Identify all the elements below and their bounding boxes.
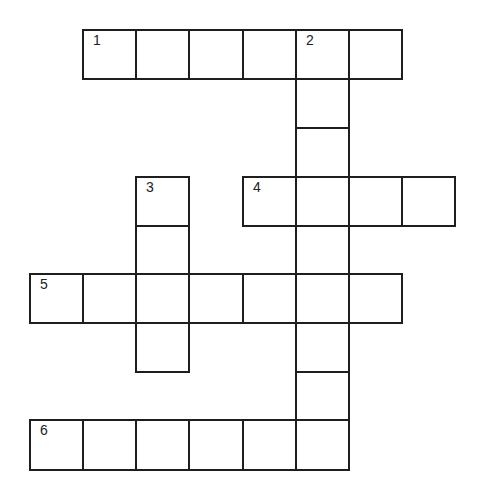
- crossword-cell[interactable]: [348, 29, 403, 80]
- letter-input[interactable]: [244, 421, 295, 469]
- letter-input[interactable]: [84, 421, 135, 469]
- crossword-cell[interactable]: [82, 419, 137, 471]
- crossword-cell[interactable]: [295, 419, 350, 471]
- letter-input[interactable]: [137, 421, 188, 469]
- letter-input[interactable]: [297, 31, 348, 78]
- letter-input[interactable]: [31, 275, 82, 322]
- crossword-cell[interactable]: [295, 225, 350, 275]
- crossword-cell-2[interactable]: 2: [295, 29, 350, 80]
- crossword-cell[interactable]: [82, 273, 137, 324]
- letter-input[interactable]: [297, 227, 348, 273]
- letter-input[interactable]: [244, 178, 295, 225]
- letter-input[interactable]: [31, 421, 82, 469]
- letter-input[interactable]: [297, 178, 348, 225]
- crossword-cell[interactable]: [242, 419, 297, 471]
- letter-input[interactable]: [244, 31, 295, 78]
- letter-input[interactable]: [137, 275, 188, 322]
- letter-input[interactable]: [297, 421, 348, 469]
- letter-input[interactable]: [244, 275, 295, 322]
- letter-input[interactable]: [350, 178, 401, 225]
- crossword-cell[interactable]: [348, 273, 403, 324]
- letter-input[interactable]: [190, 31, 242, 78]
- crossword-cell-4[interactable]: 4: [242, 176, 297, 227]
- crossword-cell[interactable]: [135, 29, 190, 80]
- crossword-cell[interactable]: [135, 322, 190, 373]
- crossword-cell[interactable]: [295, 371, 350, 421]
- letter-input[interactable]: [137, 324, 188, 371]
- crossword-cell-6[interactable]: 6: [29, 419, 84, 471]
- letter-input[interactable]: [297, 324, 348, 371]
- crossword-cell[interactable]: [188, 419, 244, 471]
- letter-input[interactable]: [350, 31, 401, 78]
- crossword-cell-5[interactable]: 5: [29, 273, 84, 324]
- crossword-cell[interactable]: [295, 127, 350, 178]
- crossword-grid: 123456: [0, 0, 479, 498]
- letter-input[interactable]: [84, 275, 135, 322]
- crossword-cell[interactable]: [188, 29, 244, 80]
- crossword-cell[interactable]: [242, 273, 297, 324]
- letter-input[interactable]: [297, 129, 348, 176]
- crossword-cell-3[interactable]: 3: [135, 176, 190, 227]
- crossword-cell[interactable]: [135, 273, 190, 324]
- letter-input[interactable]: [297, 275, 348, 322]
- crossword-cell[interactable]: [348, 176, 403, 227]
- crossword-cell[interactable]: [295, 273, 350, 324]
- crossword-cell[interactable]: [135, 419, 190, 471]
- crossword-cell[interactable]: [295, 176, 350, 227]
- letter-input[interactable]: [190, 275, 242, 322]
- crossword-cell[interactable]: [295, 322, 350, 373]
- crossword-cell[interactable]: [295, 78, 350, 129]
- letter-input[interactable]: [190, 421, 242, 469]
- letter-input[interactable]: [137, 31, 188, 78]
- letter-input[interactable]: [297, 373, 348, 419]
- letter-input[interactable]: [403, 178, 454, 225]
- crossword-cell[interactable]: [242, 29, 297, 80]
- crossword-cell[interactable]: [135, 225, 190, 275]
- letter-input[interactable]: [350, 275, 401, 322]
- letter-input[interactable]: [137, 227, 188, 273]
- letter-input[interactable]: [84, 31, 135, 78]
- crossword-cell[interactable]: [401, 176, 456, 227]
- crossword-cell[interactable]: [188, 273, 244, 324]
- letter-input[interactable]: [137, 178, 188, 225]
- crossword-cell-1[interactable]: 1: [82, 29, 137, 80]
- letter-input[interactable]: [297, 80, 348, 127]
